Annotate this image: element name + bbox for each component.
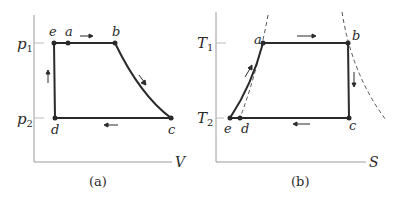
point-e bbox=[228, 116, 233, 121]
label-c: c bbox=[168, 122, 176, 137]
p1-label: p1 bbox=[17, 35, 33, 54]
pv-cycle-path bbox=[54, 43, 171, 118]
label-a: a bbox=[65, 24, 73, 39]
rankine-cycle-diagram: p1 p2 V e a b c d (a) bbox=[0, 0, 400, 198]
point-c bbox=[169, 116, 174, 121]
t1-label: T1 bbox=[197, 34, 213, 53]
point-a bbox=[66, 41, 71, 46]
arrow-icons bbox=[46, 34, 146, 127]
label-c: c bbox=[349, 118, 357, 133]
ts-cycle-path bbox=[230, 43, 349, 118]
point-d bbox=[238, 116, 243, 121]
pv-diagram: p1 p2 V e a b c d (a) bbox=[17, 15, 187, 189]
caption-a: (a) bbox=[89, 174, 107, 189]
label-d: d bbox=[51, 122, 59, 137]
label-a: a bbox=[254, 32, 262, 47]
point-b bbox=[346, 41, 351, 46]
caption-b: (b) bbox=[291, 174, 309, 189]
point-e bbox=[52, 41, 57, 46]
t2-label: T2 bbox=[197, 109, 213, 128]
label-e: e bbox=[224, 121, 232, 136]
saturated-liquid-line bbox=[240, 15, 268, 118]
s-axis-label: S bbox=[369, 154, 379, 170]
p2-label: p2 bbox=[17, 110, 33, 129]
point-d bbox=[53, 116, 58, 121]
ts-diagram: T1 T2 S a b c d e (b) bbox=[197, 12, 386, 189]
label-b: b bbox=[112, 24, 120, 39]
label-e: e bbox=[49, 24, 57, 39]
label-b: b bbox=[352, 28, 360, 43]
label-d: d bbox=[241, 121, 249, 136]
v-axis-label: V bbox=[175, 154, 187, 170]
point-b bbox=[113, 41, 118, 46]
